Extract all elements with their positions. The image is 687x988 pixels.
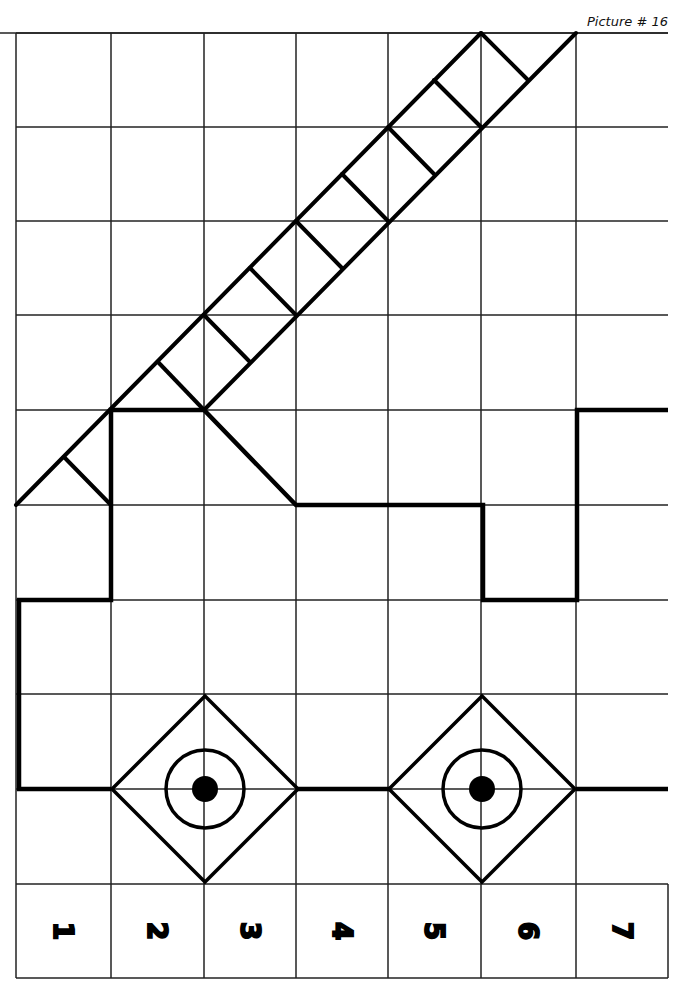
- drawing-board: [0, 0, 687, 988]
- column-number: 7: [607, 922, 637, 940]
- column-number: 1: [49, 922, 79, 940]
- ladder-rung: [158, 362, 204, 410]
- column-label-cell: 2: [111, 884, 204, 978]
- column-number: 6: [514, 922, 544, 940]
- column-label-cell: 4: [296, 884, 388, 978]
- ladder-rung: [64, 457, 111, 505]
- ladder-rung: [434, 80, 481, 127]
- column-number: 3: [235, 922, 265, 940]
- column-number: 4: [327, 922, 357, 940]
- column-label-cell: 7: [576, 884, 668, 978]
- column-label-cell: 6: [481, 884, 576, 978]
- column-number: 2: [143, 922, 173, 940]
- ladder-rung: [481, 33, 528, 80]
- ladder-rung: [342, 174, 388, 221]
- ladder-rung: [250, 268, 296, 315]
- wheel-hub: [469, 776, 495, 802]
- ladder-rung: [296, 221, 342, 268]
- column-label-cell: 1: [16, 884, 111, 978]
- ladder-rung: [388, 127, 434, 174]
- ladder-rung: [204, 315, 250, 362]
- column-label-cell: 5: [388, 884, 481, 978]
- column-number: 5: [420, 922, 450, 940]
- column-label-cell: 3: [204, 884, 296, 978]
- wheel-hub: [192, 776, 218, 802]
